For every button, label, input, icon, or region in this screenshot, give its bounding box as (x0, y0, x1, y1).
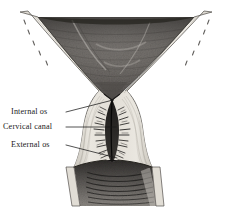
vaginal-canal (66, 160, 164, 206)
label-internal-os: Internal os (11, 108, 47, 116)
uterus-coronal-section-illustration (0, 0, 235, 210)
anatomical-figure: Internal os Cervical canal External os (0, 0, 235, 210)
vaginal-lumen (74, 160, 156, 206)
label-external-os: External os (11, 141, 50, 149)
label-cervical-canal: Cervical canal (3, 123, 52, 131)
